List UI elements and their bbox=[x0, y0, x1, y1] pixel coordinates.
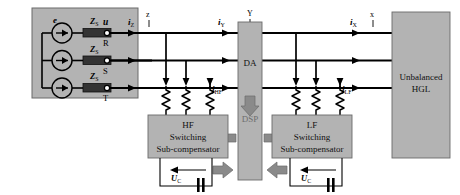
lf-dc-link: UC bbox=[290, 158, 342, 192]
lf-capacitor-plate-left bbox=[327, 178, 330, 192]
hf-compensator-line1: HF bbox=[182, 120, 194, 130]
hf-compensator-line2: Switching bbox=[170, 132, 207, 142]
lf-compensator-line1: LF bbox=[307, 120, 318, 130]
unbalanced-hgl-load: Unbalanced HGL bbox=[392, 12, 450, 158]
lf-inductor-r bbox=[292, 86, 300, 115]
lf-capacitor-plate-right bbox=[332, 178, 335, 192]
lf-dc-voltage-label: UC bbox=[301, 173, 311, 184]
diagram-canvas: e ZS ZS bbox=[0, 0, 460, 195]
load-block-line1: Unbalanced bbox=[400, 72, 443, 82]
lf-inductor-s bbox=[312, 86, 320, 115]
hf-switching-sub-compensator: HF Switching Sub-compensator bbox=[148, 115, 228, 158]
phase-label-s: S bbox=[103, 66, 108, 76]
hf-inductor-r bbox=[162, 86, 170, 115]
schematic-diagram: e ZS ZS bbox=[0, 0, 460, 195]
voltage-label-u: u bbox=[103, 17, 108, 27]
hf-capacitor-plate-left bbox=[197, 178, 200, 192]
hf-tap-branches bbox=[162, 33, 214, 115]
current-label-ix: iX bbox=[350, 17, 358, 28]
source-label-e: e bbox=[53, 15, 57, 25]
da-dsp-column: DA DSP bbox=[238, 22, 262, 180]
lf-tap-branches bbox=[292, 33, 344, 115]
current-label-iy: iY bbox=[218, 17, 226, 28]
load-block-line2: HGL bbox=[412, 84, 431, 94]
hf-dc-to-dsp-arrow-icon bbox=[213, 162, 233, 178]
node-label-x: x bbox=[370, 10, 374, 19]
phase-label-t: T bbox=[103, 93, 109, 103]
phase-label-r: R bbox=[103, 38, 109, 48]
node-label-y: Y bbox=[247, 9, 253, 18]
terminal-node-r bbox=[104, 30, 109, 35]
hf-dc-voltage-label: UC bbox=[171, 173, 181, 184]
node-label-z: z bbox=[146, 10, 150, 19]
hf-inductor-s bbox=[182, 86, 190, 115]
terminal-node-s bbox=[104, 58, 109, 63]
lf-dc-to-dsp-arrow-icon bbox=[267, 162, 287, 178]
hf-compensator-line3: Sub-compensator bbox=[157, 144, 220, 154]
da-block-label: DA bbox=[244, 58, 257, 68]
lf-switching-sub-compensator: LF Switching Sub-compensator bbox=[272, 115, 352, 158]
lf-compensator-line3: Sub-compensator bbox=[281, 144, 344, 154]
hf-dc-link: UC bbox=[160, 158, 212, 192]
hf-capacitor-plate-right bbox=[202, 178, 205, 192]
lf-compensator-line2: Switching bbox=[294, 132, 331, 142]
terminal-node-t bbox=[104, 85, 109, 90]
